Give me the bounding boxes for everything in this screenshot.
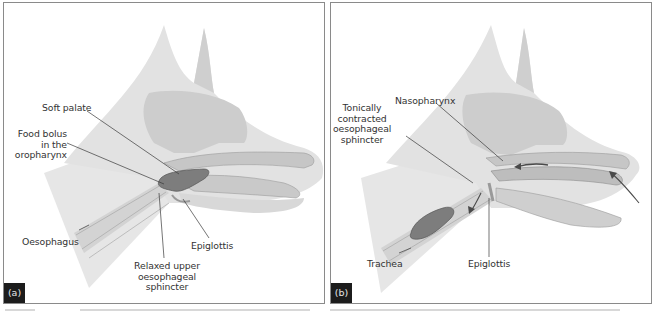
label-tonically-line4: sphincter [333, 135, 391, 146]
label-food-bolus-line3: oropharynx [12, 150, 67, 161]
label-food-bolus-line1: Food bolus [12, 129, 67, 140]
label-nasopharynx: Nasopharynx [395, 96, 455, 107]
panel-tag-a: (a) [4, 283, 25, 303]
cropped-caption-strip [0, 305, 654, 316]
label-soft-palate: Soft palate [42, 103, 91, 114]
label-epiglottis: Epiglottis [191, 241, 233, 252]
panel-a-swallowing-relaxed: Soft palate Food bolus in the oropharynx… [3, 2, 325, 304]
label-tonically-line1: Tonically [333, 103, 391, 114]
label-oesophagus: Oesophagus [22, 237, 79, 248]
label-tonically-contracted: Tonically contracted oesophageal sphinct… [333, 103, 391, 145]
panel-b-breathing: Nasopharynx Tonically contracted oesopha… [330, 2, 652, 304]
ear [194, 28, 214, 93]
label-relaxed-line3: sphincter [132, 282, 202, 293]
label-epiglottis: Epiglottis [468, 259, 510, 270]
label-relaxed-sphincter: Relaxed upper oesophageal sphincter [132, 261, 202, 293]
ear [516, 28, 534, 93]
panel-tag-b: (b) [331, 283, 352, 303]
label-tonically-line3: oesophageal [333, 124, 391, 135]
label-food-bolus: Food bolus in the oropharynx [12, 129, 67, 161]
label-trachea: Trachea [367, 259, 403, 270]
label-relaxed-line1: Relaxed upper [132, 261, 202, 272]
